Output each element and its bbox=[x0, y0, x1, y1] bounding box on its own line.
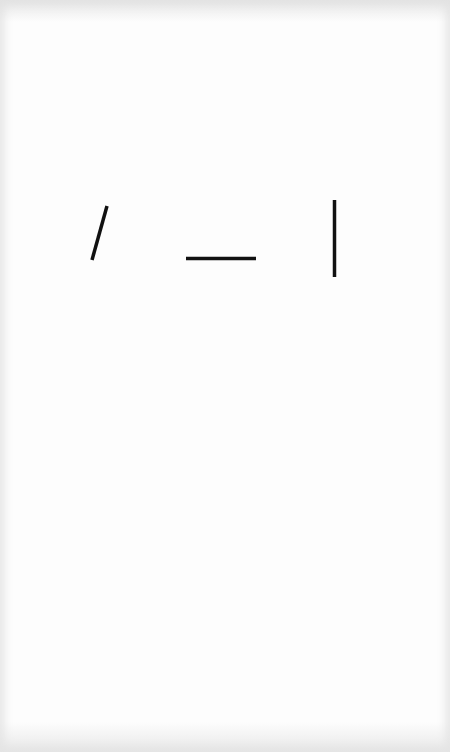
oblique-line bbox=[92, 206, 107, 260]
stimulus-card bbox=[0, 0, 450, 752]
line-stimuli-figure bbox=[0, 0, 450, 752]
